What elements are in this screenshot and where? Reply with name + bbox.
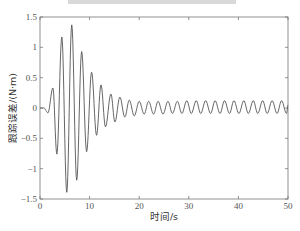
- x-tick-label: 20: [135, 201, 145, 211]
- y-tick-label: 1.5: [26, 12, 38, 22]
- y-tick-label: 1: [33, 42, 38, 52]
- line-chart: 01020304050 −1.5−1−0.500.511.5 时间/s 跟踪误差…: [0, 0, 300, 231]
- y-tick-label: −1.5: [21, 194, 38, 204]
- x-tick-label: 10: [85, 201, 95, 211]
- chart-title-cropped: [68, 0, 236, 4]
- x-tick-label: 40: [234, 201, 244, 211]
- y-tick-labels: −1.5−1−0.500.511.5: [21, 12, 38, 204]
- y-tick-label: 0: [33, 103, 38, 113]
- x-tick-labels: 01020304050: [38, 201, 293, 211]
- x-tick-label: 50: [284, 201, 294, 211]
- y-axis-label: 跟踪误差/(N·m): [7, 73, 18, 143]
- y-tick-label: 0.5: [26, 73, 38, 83]
- y-tick-label: −0.5: [21, 133, 38, 143]
- x-tick-label: 30: [184, 201, 194, 211]
- x-axis-label: 时间/s: [150, 211, 178, 222]
- x-tick-label: 0: [38, 201, 43, 211]
- tracking-error-line: [40, 25, 288, 192]
- y-tick-label: −1: [27, 164, 37, 174]
